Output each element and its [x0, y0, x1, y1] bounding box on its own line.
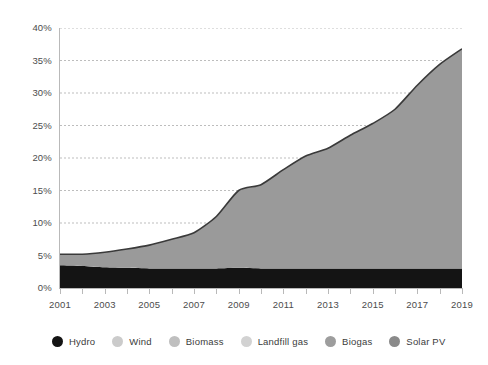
- x-tick-mark: [440, 289, 441, 294]
- legend-label: Biogas: [342, 336, 372, 347]
- legend-swatch-icon: [389, 336, 400, 347]
- area-series-wind: [60, 49, 462, 269]
- x-tick-label: 2005: [129, 299, 169, 311]
- x-tick-label: 2007: [174, 299, 214, 311]
- x-tick-mark: [417, 289, 418, 294]
- y-tick-label: 0%: [8, 283, 52, 293]
- legend-item-solar-pv[interactable]: Solar PV: [389, 336, 445, 347]
- legend-label: Biomass: [186, 336, 224, 347]
- x-tick-label: 2001: [40, 299, 80, 311]
- x-tick-mark: [395, 289, 396, 294]
- x-tick-mark: [462, 289, 463, 294]
- legend-item-biomass[interactable]: Biomass: [169, 336, 224, 347]
- x-tick-mark: [306, 289, 307, 294]
- stacked-areas: [60, 49, 462, 288]
- legend-item-biogas[interactable]: Biogas: [325, 336, 372, 347]
- x-tick-label: 2015: [353, 299, 393, 311]
- legend-swatch-icon: [325, 336, 336, 347]
- x-tick-mark: [328, 289, 329, 294]
- x-tick-mark: [149, 289, 150, 294]
- legend-item-wind[interactable]: Wind: [112, 336, 151, 347]
- legend-item-hydro[interactable]: Hydro: [52, 336, 95, 347]
- x-tick-label: 2017: [397, 299, 437, 311]
- x-tick-label: 2011: [263, 299, 303, 311]
- y-axis-line: [59, 28, 60, 289]
- y-tick-label: 35%: [8, 56, 52, 66]
- x-tick-label: 2013: [308, 299, 348, 311]
- legend-label: Solar PV: [406, 336, 445, 347]
- y-tick-label: 15%: [8, 186, 52, 196]
- y-tick-label: 20%: [8, 153, 52, 163]
- y-tick-label: 30%: [8, 88, 52, 98]
- y-tick-label: 25%: [8, 121, 52, 131]
- x-tick-mark: [216, 289, 217, 294]
- x-tick-mark: [261, 289, 262, 294]
- legend-label: Hydro: [69, 336, 95, 347]
- area-series-hydro: [60, 265, 462, 288]
- x-tick-label: 2003: [85, 299, 125, 311]
- x-tick-label: 2019: [442, 299, 482, 311]
- y-tick-label: 40%: [8, 23, 52, 33]
- y-tick-label: 10%: [8, 218, 52, 228]
- x-tick-mark: [194, 289, 195, 294]
- plot-area: [60, 28, 462, 288]
- x-tick-mark: [82, 289, 83, 294]
- plot-svg: [60, 28, 462, 288]
- x-tick-mark: [172, 289, 173, 294]
- legend-swatch-icon: [169, 336, 180, 347]
- x-axis-labels: 2001200320052007200920112013201520172019: [0, 299, 488, 313]
- legend-swatch-icon: [52, 336, 63, 347]
- x-tick-mark: [373, 289, 374, 294]
- legend-item-landfill-gas[interactable]: Landfill gas: [241, 336, 308, 347]
- area-chart: 40%35%30%25%20%15%10%5%0% 20012003200520…: [0, 0, 488, 365]
- legend-label: Wind: [129, 336, 151, 347]
- y-tick-label: 5%: [8, 251, 52, 261]
- x-tick-mark: [105, 289, 106, 294]
- legend-swatch-icon: [241, 336, 252, 347]
- x-tick-mark: [239, 289, 240, 294]
- legend-swatch-icon: [112, 336, 123, 347]
- x-tick-label: 2009: [219, 299, 259, 311]
- x-tick-mark: [350, 289, 351, 294]
- x-tick-mark: [283, 289, 284, 294]
- legend-label: Landfill gas: [258, 336, 308, 347]
- x-tick-mark: [60, 289, 61, 294]
- x-tick-mark: [127, 289, 128, 294]
- chart-legend: HydroWindBiomassLandfill gasBiogasSolar …: [52, 331, 452, 351]
